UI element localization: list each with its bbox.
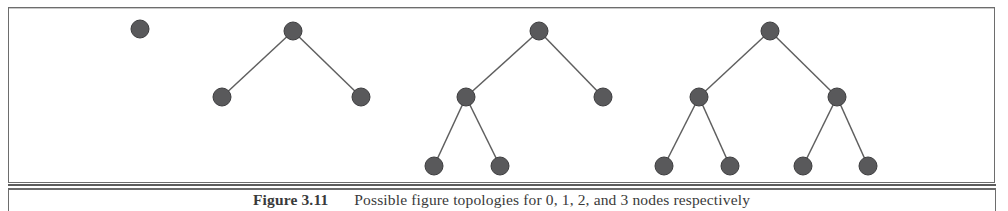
tree-node [721, 157, 739, 175]
scanned-page: Figure 3.11Possible figure topologies fo… [0, 0, 1008, 211]
tree-node [690, 88, 708, 106]
tree-edge [293, 31, 361, 97]
figure-caption-line: Figure 3.11Possible figure topologies fo… [8, 191, 995, 209]
tree-node [828, 88, 846, 106]
tree-edge [770, 31, 837, 97]
tree-node [794, 157, 812, 175]
tree-edge [664, 97, 699, 166]
tree-edges-layer [222, 31, 868, 166]
tree-node [594, 88, 612, 106]
tree-edge [434, 97, 466, 166]
tree-node [457, 88, 475, 106]
figure-caption-text: Possible figure topologies for 0, 1, 2, … [354, 191, 750, 208]
tree-edge [222, 31, 293, 97]
tree-edge [699, 31, 770, 97]
caption-frame-right-border [995, 190, 996, 211]
tree-node [352, 88, 370, 106]
tree-node [655, 157, 673, 175]
tree-edge [466, 31, 539, 97]
figure-caption: Figure 3.11Possible figure topologies fo… [8, 190, 995, 211]
tree-node [131, 20, 149, 38]
tree-edge [466, 97, 500, 166]
tree-edge [837, 97, 868, 166]
tree-node [859, 157, 877, 175]
tree-node [425, 157, 443, 175]
tree-edge [803, 97, 837, 166]
figure-caption-label: Figure 3.11 [253, 191, 328, 208]
tree-node [213, 88, 231, 106]
tree-node [761, 22, 779, 40]
tree-edge [699, 97, 730, 166]
tree-node [284, 22, 302, 40]
tree-nodes-layer [131, 20, 877, 175]
figure-separator-rule-top [8, 184, 996, 186]
tree-edge [539, 31, 603, 97]
tree-node [530, 22, 548, 40]
binary-tree-figure [0, 0, 1008, 184]
tree-node [491, 157, 509, 175]
